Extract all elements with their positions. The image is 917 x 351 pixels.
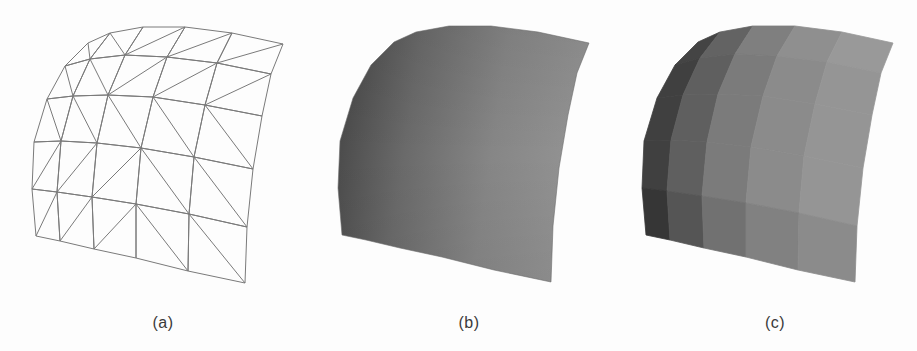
panel-b-caption: (b)	[439, 314, 499, 332]
mesh-diagonal	[108, 57, 167, 95]
mesh-diagonal	[205, 105, 253, 169]
figure-canvas	[0, 0, 917, 351]
flat-face	[702, 196, 746, 257]
mesh-diagonal	[94, 204, 136, 249]
mesh-diagonal	[57, 143, 97, 192]
flat-face	[746, 147, 804, 213]
mesh-quad	[65, 33, 110, 66]
flat-face	[667, 140, 707, 196]
mesh-diagonal	[108, 95, 141, 148]
flat-face	[751, 96, 815, 156]
mesh-diagonal	[36, 192, 57, 236]
mesh-quad	[57, 141, 97, 197]
mesh-quad	[92, 143, 141, 204]
flat-face	[642, 140, 671, 191]
mesh-diagonal	[217, 44, 283, 63]
figure: (a) (b) (c)	[0, 0, 917, 351]
mesh-diagonal	[47, 99, 61, 141]
panel-a-caption: (a)	[133, 314, 193, 332]
mesh-diagonal	[205, 74, 271, 105]
mesh-diagonal	[60, 197, 92, 241]
mesh-diagonal	[92, 148, 141, 197]
panel-c-caption: (c)	[745, 314, 805, 332]
flat-face	[702, 142, 751, 203]
flat-face	[667, 191, 704, 248]
flat-face	[746, 203, 799, 270]
mesh-diagonal	[136, 204, 188, 271]
mesh-diagonal	[65, 66, 73, 96]
panel-a-wireframe-mesh	[32, 27, 283, 283]
mesh-diagonal	[90, 59, 108, 95]
mesh-diagonal	[32, 141, 61, 189]
mesh-diagonal	[110, 33, 125, 55]
mesh-diagonal	[141, 148, 189, 214]
mesh-diagonal	[153, 97, 194, 157]
panel-b-smooth-shaded-surface	[338, 26, 589, 282]
mesh-diagonal	[88, 43, 90, 59]
smooth-surface-shading	[338, 26, 589, 282]
flat-face	[642, 188, 670, 240]
mesh-diagonal	[73, 96, 97, 143]
panel-c-flat-shaded-mesh	[642, 26, 893, 282]
